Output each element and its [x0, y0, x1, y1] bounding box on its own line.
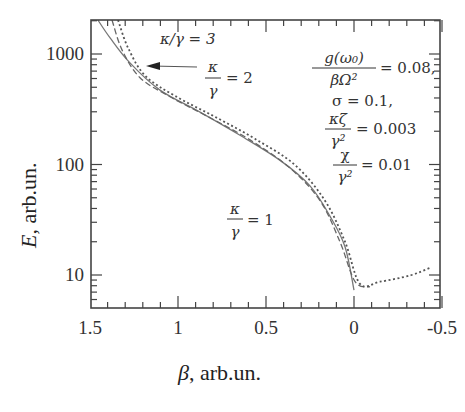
svg-text:= 0.003: = 0.003 [356, 120, 416, 138]
svg-text:γ: γ [231, 223, 240, 241]
svg-text:κ: κ [207, 58, 218, 76]
x-axis-title: β, arb.un. [177, 360, 261, 385]
x-tick-label: 1 [173, 317, 183, 338]
svg-text:σ = 0.1,: σ = 0.1, [332, 92, 393, 110]
x-tick-label: 0.5 [254, 317, 278, 338]
y-tick-label: 10 [65, 264, 84, 285]
svg-text:= 2: = 2 [226, 69, 253, 87]
svg-text:= 1: = 1 [247, 211, 274, 229]
x-tick-label: 0 [349, 317, 359, 338]
chart: 1.510.50-0.5101001000 β, arb.un. E, arb.… [0, 0, 465, 412]
svg-text:χ: χ [340, 146, 349, 164]
x-tick-label: 1.5 [78, 317, 102, 338]
svg-text:γ²: γ² [338, 168, 353, 186]
y-tick-label: 1000 [46, 43, 84, 64]
svg-text:βΩ²: βΩ² [329, 71, 357, 89]
svg-text:γ: γ [209, 82, 218, 100]
x-tick-label: -0.5 [427, 317, 457, 338]
y-axis-title: E, arb.un. [16, 162, 41, 249]
svg-text:κζ: κζ [328, 110, 348, 128]
svg-text:g(ω₀): g(ω₀) [324, 49, 364, 67]
label-k3: κ/γ = 3 [159, 30, 216, 48]
svg-text:κ: κ [229, 200, 240, 218]
svg-text:= 0.08,: = 0.08, [380, 59, 436, 77]
svg-text:= 0.01: = 0.01 [361, 156, 412, 174]
y-tick-label: 100 [56, 154, 85, 175]
